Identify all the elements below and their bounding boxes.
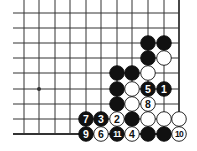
white-stone bbox=[125, 82, 140, 97]
black-stone-move-9: 9 bbox=[79, 127, 94, 142]
white-stone-icon bbox=[125, 97, 140, 112]
move-number-label: 10 bbox=[175, 129, 184, 139]
move-number-label: 9 bbox=[83, 128, 89, 140]
move-number-label: 8 bbox=[145, 98, 151, 110]
move-number-label: 11 bbox=[113, 129, 121, 139]
white-stone-icon bbox=[157, 112, 172, 127]
black-stone-move-5: 5 bbox=[141, 82, 156, 97]
white-stone-icon bbox=[125, 82, 140, 97]
black-stone-icon bbox=[125, 66, 140, 81]
black-stone bbox=[110, 82, 125, 97]
black-stone bbox=[141, 36, 156, 51]
move-number-label: 6 bbox=[98, 128, 104, 140]
black-stone bbox=[110, 66, 125, 81]
move-number-label: 2 bbox=[114, 113, 120, 125]
white-stone-icon bbox=[157, 51, 172, 66]
black-stone-move-3: 3 bbox=[94, 112, 109, 127]
move-number-label: 4 bbox=[129, 128, 135, 140]
black-stone-move-11: 11 bbox=[110, 127, 125, 142]
white-stone-move-2: 2 bbox=[110, 112, 125, 127]
black-stone-icon bbox=[110, 97, 125, 112]
black-stone-icon bbox=[141, 51, 156, 66]
star-points bbox=[37, 87, 41, 91]
move-number-label: 3 bbox=[98, 113, 104, 125]
white-stone bbox=[157, 51, 172, 66]
black-stone-icon bbox=[110, 66, 125, 81]
black-stone-icon bbox=[110, 82, 125, 97]
white-stone-move-4: 4 bbox=[125, 127, 140, 142]
go-board-svg: 5187329611410 bbox=[0, 0, 197, 151]
black-stone bbox=[125, 66, 140, 81]
black-stone bbox=[125, 112, 140, 127]
white-stone bbox=[125, 97, 140, 112]
white-stone-icon bbox=[141, 66, 156, 81]
black-stone-move-1: 1 bbox=[157, 82, 172, 97]
move-number-label: 5 bbox=[145, 83, 151, 95]
black-stone-icon bbox=[125, 112, 140, 127]
star-point-icon bbox=[37, 87, 41, 91]
white-stone-move-6: 6 bbox=[94, 127, 109, 142]
white-stone bbox=[141, 66, 156, 81]
white-stone-icon bbox=[141, 112, 156, 127]
go-board-diagram: 5187329611410 bbox=[0, 0, 197, 151]
white-stone-move-8: 8 bbox=[141, 97, 156, 112]
white-stone bbox=[141, 112, 156, 127]
white-stone-icon bbox=[172, 112, 187, 127]
move-number-label: 1 bbox=[161, 83, 167, 95]
black-stone bbox=[141, 51, 156, 66]
white-stone bbox=[172, 112, 187, 127]
black-stone bbox=[157, 36, 172, 51]
black-stone-icon bbox=[157, 36, 172, 51]
black-stone-icon bbox=[157, 127, 172, 142]
black-stone-icon bbox=[141, 36, 156, 51]
black-stone bbox=[141, 127, 156, 142]
black-stone-icon bbox=[141, 127, 156, 142]
white-stone bbox=[157, 112, 172, 127]
white-stone-move-10: 10 bbox=[172, 127, 187, 142]
black-stone bbox=[110, 97, 125, 112]
black-stone bbox=[157, 127, 172, 142]
black-stone-move-7: 7 bbox=[79, 112, 94, 127]
move-number-label: 7 bbox=[83, 113, 89, 125]
